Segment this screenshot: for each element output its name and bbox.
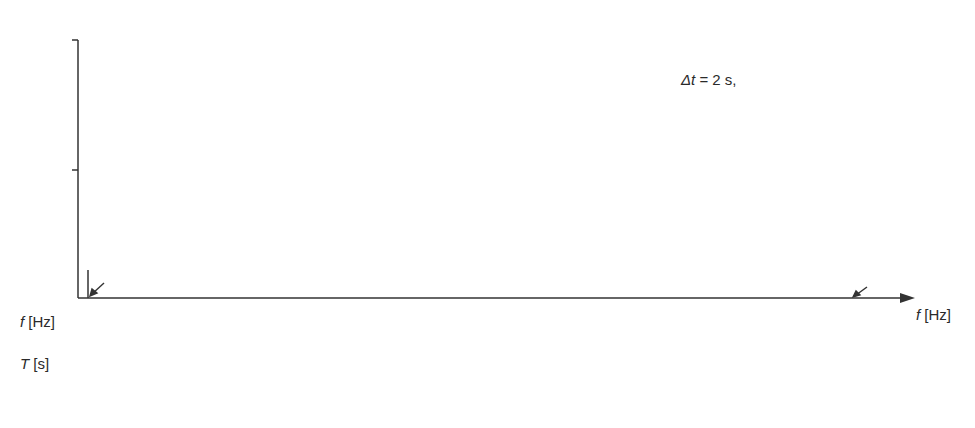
row-label-f: f [Hz] [20, 313, 55, 330]
row-label-T: T [s] [20, 355, 49, 372]
axes [72, 40, 905, 298]
no32-arrow-icon [853, 287, 867, 297]
annotation-dt: Δt = 2 s, [681, 71, 745, 91]
x-axis-arrow-icon [900, 293, 915, 303]
x-axis-label: f [Hz] [916, 306, 951, 323]
no1-arrow-icon [90, 283, 104, 296]
filter-bank-chart [0, 0, 975, 428]
